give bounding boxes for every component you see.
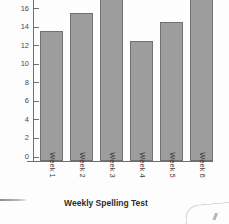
- bar-slot: [67, 0, 97, 161]
- y-axis-tick-label: 10: [9, 59, 29, 69]
- y-axis-tick-label: 16: [9, 4, 29, 14]
- plot-area: 024681012141618: [33, 0, 213, 162]
- bar[interactable]: [160, 22, 183, 161]
- y-axis-tick-label: 12: [9, 41, 29, 51]
- x-axis-labels: Week 1Week 2Week 3Week 4Week 5Week 6: [34, 163, 214, 201]
- bar-slot: [37, 0, 67, 161]
- y-axis-tick-label: 4: [9, 115, 29, 125]
- bar[interactable]: [100, 0, 123, 161]
- bar[interactable]: [190, 0, 213, 161]
- x-axis-label: Week 4: [127, 163, 157, 201]
- x-axis-label-text: Week 5: [167, 152, 177, 177]
- y-axis-tick-label: 6: [9, 96, 29, 106]
- chart-title: Weekly Spelling Test: [0, 198, 212, 208]
- bar[interactable]: [40, 31, 63, 161]
- bar-slot: [127, 0, 157, 161]
- y-axis-tick-label: 8: [9, 78, 29, 88]
- x-axis-label-text: Week 2: [77, 152, 87, 177]
- x-axis-label-text: Week 3: [107, 152, 117, 177]
- x-axis-label: Week 5: [157, 163, 187, 201]
- bar[interactable]: [70, 13, 93, 161]
- bar[interactable]: [130, 41, 153, 161]
- bar-slot: [157, 0, 187, 161]
- bar-chart: 024681012141618 Week 1Week 2Week 3Week 4…: [0, 0, 229, 224]
- x-axis-label: Week 3: [97, 163, 127, 201]
- screenshot-root: 024681012141618 Week 1Week 2Week 3Week 4…: [0, 0, 229, 224]
- x-axis-label: Week 6: [187, 163, 217, 201]
- x-axis-label-text: Week 4: [137, 152, 147, 177]
- y-axis-tick-label: 0: [9, 152, 29, 162]
- x-axis-label-text: Week 6: [197, 152, 207, 177]
- bar-slot: [187, 0, 217, 161]
- x-axis-label-text: Week 1: [47, 152, 57, 177]
- scan-artifact-corner-mark: //: [213, 212, 216, 222]
- scan-artifact-left-line: [0, 199, 26, 201]
- x-axis-label: Week 2: [67, 163, 97, 201]
- y-axis-tick-label: 2: [9, 133, 29, 143]
- bar-slot: [97, 0, 127, 161]
- x-axis-label: Week 1: [37, 163, 67, 201]
- y-axis-tick-label: 14: [9, 22, 29, 32]
- bar-series: [34, 0, 213, 161]
